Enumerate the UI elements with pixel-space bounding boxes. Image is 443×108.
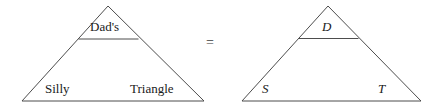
triangle-mnemonic-figure: Dad's Silly Triangle = D S T — [0, 0, 443, 108]
right-triangle-bottom-left-label: S — [262, 82, 269, 95]
left-triangle-apex-label: Dad's — [90, 20, 119, 33]
right-triangle-apex-label: D — [322, 20, 331, 33]
equals-sign: = — [206, 36, 214, 50]
left-triangle-bottom-left-label: Silly — [45, 82, 70, 95]
left-triangle-bottom-right-label: Triangle — [130, 82, 174, 95]
right-triangle-bottom-right-label: T — [378, 82, 385, 95]
